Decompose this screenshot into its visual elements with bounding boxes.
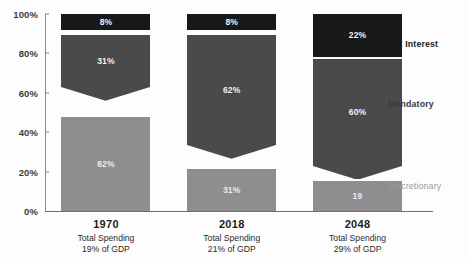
bar-segment-label: 62% [223, 86, 241, 95]
chart-legend: Net Interest Mandatory Discretionary [388, 0, 469, 260]
bar-segment-label: 60% [349, 108, 367, 117]
bar-segment-label: 8% [100, 18, 113, 27]
category-sublabel-line2: 29% of GDP [334, 244, 382, 254]
category-sublabel-line2: 21% of GDP [208, 244, 256, 254]
bar-segment-discretionary[interactable]: 62% [61, 117, 150, 211]
legend-item-discretionary[interactable]: Discretionary [388, 181, 441, 191]
category-label-2018: 2018 Total Spending 21% of GDP [187, 213, 276, 256]
bar-group-2018: 8% 62% 31% [187, 14, 276, 211]
chart-container: 100% 80% 60% 40% 20% 0% 8% 31% [0, 0, 469, 260]
legend-item-mandatory[interactable]: Mandatory [388, 99, 434, 109]
category-year: 1970 [61, 218, 150, 230]
y-tick-label-0: 0% [24, 206, 38, 217]
category-sublabel-line1: Total Spending [329, 233, 386, 243]
plot-area: 8% 31% 62% 8% 62% [46, 14, 433, 211]
bar-segment-label: 22% [349, 31, 367, 40]
category-sublabel: Total Spending 19% of GDP [61, 233, 150, 256]
category-year: 2018 [187, 218, 276, 230]
y-tick-label-20: 20% [19, 166, 38, 177]
y-axis: 100% 80% 60% 40% 20% 0% [0, 0, 46, 260]
y-tick-label-100: 100% [13, 9, 38, 20]
bar-segment-label: 19 [353, 192, 363, 201]
bar-group-1970: 8% 31% 62% [61, 14, 150, 211]
category-label-1970: 1970 Total Spending 19% of GDP [61, 213, 150, 256]
bar-segment-label: 62% [97, 160, 115, 169]
legend-item-net-interest[interactable]: Net Interest [388, 39, 438, 49]
bar-segment-mandatory[interactable]: 62% [187, 35, 276, 145]
y-tick-label-80: 80% [19, 48, 38, 59]
bar-segment-net-interest[interactable]: 8% [187, 14, 276, 30]
bar-segment-discretionary[interactable]: 31% [187, 169, 276, 211]
y-tick-label-40: 40% [19, 127, 38, 138]
bar-segment-label: 31% [97, 57, 115, 66]
y-tick-label-60: 60% [19, 87, 38, 98]
x-axis-category-labels: 1970 Total Spending 19% of GDP 2018 Tota… [46, 213, 433, 260]
bar-segment-mandatory[interactable]: 31% [61, 35, 150, 87]
category-sublabel-line1: Total Spending [203, 233, 260, 243]
category-sublabel: Total Spending 21% of GDP [187, 233, 276, 256]
bar-segment-net-interest[interactable]: 8% [61, 14, 150, 30]
bar-segment-label: 8% [225, 18, 238, 27]
chevron-down-icon [187, 145, 276, 159]
chevron-down-icon [61, 87, 150, 101]
category-sublabel-line1: Total Spending [78, 233, 135, 243]
category-sublabel-line2: 19% of GDP [82, 244, 130, 254]
bar-segment-label: 31% [223, 186, 241, 195]
